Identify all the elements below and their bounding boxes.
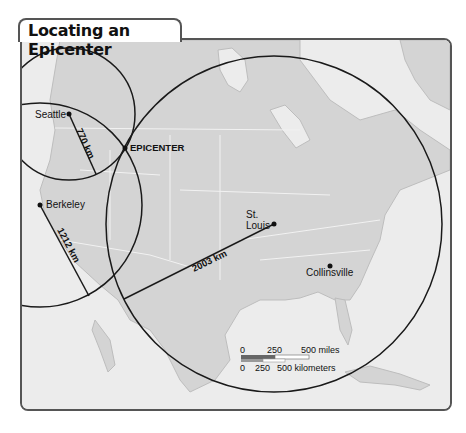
svg-text:500 miles: 500 miles — [301, 345, 340, 355]
stlouis-label-line2: Louis — [246, 220, 270, 231]
svg-text:250: 250 — [267, 345, 282, 355]
stlouis-label-line1: St. — [246, 209, 258, 220]
epicenter-map: Seattle EPICENTER Berkeley St. Louis Col… — [0, 0, 466, 433]
seattle-label: Seattle — [35, 109, 67, 120]
map-title: Locating an Epicenter — [28, 21, 180, 59]
berkeley-label: Berkeley — [46, 199, 85, 210]
map-title-tab: Locating an Epicenter — [18, 18, 182, 42]
svg-text:0: 0 — [240, 363, 245, 373]
berkeley-marker — [38, 203, 43, 208]
stlouis-marker — [272, 222, 277, 227]
collinsville-label: Collinsville — [306, 267, 354, 278]
svg-text:500 kilometers: 500 kilometers — [277, 363, 336, 373]
epicenter-label: EPICENTER — [130, 142, 185, 153]
seattle-marker — [67, 112, 72, 117]
svg-text:250: 250 — [255, 363, 270, 373]
svg-text:0: 0 — [240, 345, 245, 355]
epicenter-marker — [123, 146, 128, 151]
